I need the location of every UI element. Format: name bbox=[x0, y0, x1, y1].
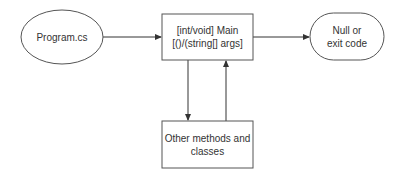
node-main-label-line2: [()/(string[] args] bbox=[172, 38, 243, 49]
rectangle-shape bbox=[162, 121, 253, 168]
node-other: Other methods and classes bbox=[162, 121, 253, 168]
rectangle-shape bbox=[162, 14, 253, 60]
node-result-label-line2: exit code bbox=[327, 38, 367, 49]
node-program-label: Program.cs bbox=[36, 32, 87, 43]
node-other-label-line2: classes bbox=[191, 146, 224, 157]
node-main: [int/void] Main [()/(string[] args] bbox=[162, 14, 253, 60]
stadium-shape bbox=[310, 13, 384, 60]
node-other-label-line1: Other methods and bbox=[165, 133, 251, 144]
node-result-label-line1: Null or bbox=[333, 25, 363, 36]
flow-diagram: Program.cs [int/void] Main [()/(string[]… bbox=[0, 0, 408, 180]
node-result: Null or exit code bbox=[310, 13, 384, 60]
node-main-label-line1: [int/void] Main bbox=[177, 25, 239, 36]
node-program: Program.cs bbox=[21, 10, 103, 64]
